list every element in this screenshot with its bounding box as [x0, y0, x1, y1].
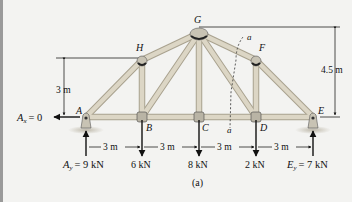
label-b: B [146, 122, 152, 133]
reaction-label-ay: Ay= 9 kN [62, 159, 104, 172]
dim-left-height: 3 m [56, 85, 71, 95]
load-label-d: 2 kN [245, 159, 265, 170]
joint-g [190, 28, 208, 40]
reaction-label-ax: Ax= 0 [16, 112, 42, 125]
load-label-c: 8 kN [188, 159, 208, 170]
member-ah [86, 60, 142, 117]
label-d: D [259, 122, 268, 133]
dim-span-1: 3 m [103, 142, 118, 152]
label-c: C [202, 122, 209, 133]
label-f: F [258, 42, 266, 53]
truss-diagram: G H F A B C D E a a 3 m 4.5 m 3 m 3 m 3 … [0, 0, 352, 202]
label-e: E [317, 105, 324, 116]
joint-h [137, 56, 147, 66]
dim-span-4: 3 m [274, 142, 289, 152]
reaction-label-ey: Ey= 7 kN [286, 159, 328, 172]
joint-f [251, 56, 261, 66]
member-fe [256, 60, 313, 117]
label-g: G [194, 14, 201, 25]
dim-span-2: 3 m [160, 142, 175, 152]
label-h: H [135, 42, 144, 53]
section-label-bottom: a [227, 125, 232, 135]
figure-caption: (a) [192, 177, 203, 189]
dim-right-height: 4.5 m [321, 65, 343, 75]
dim-span-3: 3 m [217, 142, 232, 152]
load-label-b: 6 kN [131, 159, 151, 170]
truss-members [86, 33, 313, 117]
section-label-top: a [247, 32, 252, 42]
label-a: A [75, 105, 83, 116]
